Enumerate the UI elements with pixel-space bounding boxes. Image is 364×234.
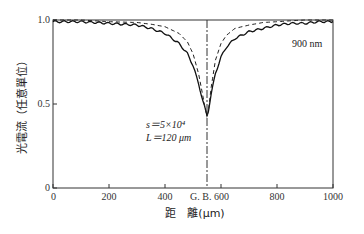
- y-axis-ticks: 00.51.0: [38, 14, 58, 193]
- x-tick-label: 400: [158, 191, 173, 202]
- x-tick-label: 0: [51, 191, 56, 202]
- plot-frame: [53, 20, 333, 188]
- x-tick-label: 800: [270, 191, 285, 202]
- x-tick-label: 1000: [323, 191, 343, 202]
- x-tick-label: 200: [102, 191, 117, 202]
- solid-curve: [53, 21, 333, 116]
- chart: 00.51.0 0200400G. B. 6008001000 900 nm s…: [0, 0, 364, 234]
- x-axis-label: 距 離(μm): [165, 206, 224, 220]
- y-tick-label: 0: [45, 182, 50, 193]
- y-tick-label: 1.0: [38, 14, 51, 25]
- wavelength-label: 900 nm: [292, 38, 323, 49]
- L-parameter-label: L＝120 μm: [145, 132, 191, 143]
- y-tick-label: 0.5: [38, 98, 51, 109]
- x-axis-ticks: 0200400G. B. 6008001000: [51, 184, 343, 202]
- s-parameter-label: s＝5×10⁴: [146, 119, 186, 130]
- y-axis-label: 光電流（任意單位）: [15, 55, 29, 154]
- x-tick-label: G. B. 600: [190, 191, 229, 202]
- dashed-curve: [53, 20, 333, 116]
